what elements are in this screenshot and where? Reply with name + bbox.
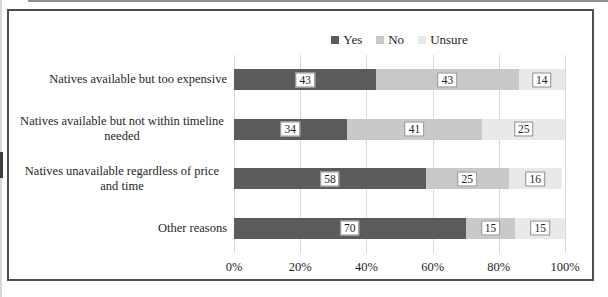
- legend-swatch-icon: [331, 36, 339, 44]
- scan-artifact-top-line: [28, 0, 608, 2]
- data-label: 25: [514, 122, 534, 137]
- bar-segment-unsure: 25: [482, 119, 565, 140]
- bar-segment-yes: 43: [234, 69, 376, 90]
- legend-item-unsure: Unsure: [418, 33, 468, 47]
- category-label: Natives available but not within timelin…: [17, 105, 227, 155]
- bar-row: 434314: [234, 69, 565, 90]
- bar-segment-yes: 70: [234, 218, 466, 239]
- plot-area: 434314344125582516701515: [234, 55, 565, 253]
- figure-page: YesNoUnsure 434314344125582516701515 Nat…: [0, 0, 608, 297]
- bar-row: 344125: [234, 119, 565, 140]
- bar-segment-yes: 58: [234, 168, 426, 189]
- bar-segment-unsure: 14: [519, 69, 565, 90]
- scan-artifact-left-edge: [0, 0, 2, 297]
- legend-label: Yes: [343, 33, 362, 47]
- category-label: Other reasons: [17, 204, 227, 254]
- data-label: 15: [481, 221, 501, 236]
- x-axis-tick: 100%: [550, 260, 579, 274]
- legend-swatch-icon: [376, 36, 384, 44]
- data-label: 15: [530, 221, 550, 236]
- bar-segment-no: 15: [466, 218, 516, 239]
- x-axis-tick: 0%: [226, 260, 243, 274]
- legend-item-no: No: [376, 33, 404, 47]
- bar-segment-no: 25: [426, 168, 509, 189]
- data-label: 43: [438, 72, 458, 87]
- chart-frame: YesNoUnsure 434314344125582516701515 Nat…: [7, 9, 594, 281]
- data-label: 14: [532, 72, 552, 87]
- x-axis-tick: 40%: [355, 260, 378, 274]
- bar-segment-no: 41: [347, 119, 483, 140]
- data-label: 16: [525, 171, 545, 186]
- x-axis-tick: 60%: [421, 260, 444, 274]
- category-label: Natives available but too expensive: [17, 55, 227, 105]
- x-axis-tick: 80%: [487, 260, 510, 274]
- data-label: 70: [340, 221, 360, 236]
- chart-legend: YesNoUnsure: [234, 31, 565, 49]
- bar-segment-unsure: 16: [509, 168, 562, 189]
- legend-item-yes: Yes: [331, 33, 362, 47]
- bar-row: 701515: [234, 218, 565, 239]
- data-label: 41: [405, 122, 425, 137]
- bar-segment-no: 43: [376, 69, 518, 90]
- bar-segment-yes: 34: [234, 119, 347, 140]
- x-axis-tick: 20%: [289, 260, 312, 274]
- category-label: Natives unavailable regardless of price …: [17, 154, 227, 204]
- scan-artifact-left-mark: [0, 152, 3, 178]
- bar-segment-unsure: 15: [515, 218, 565, 239]
- gridline: [565, 55, 566, 253]
- legend-label: No: [388, 33, 404, 47]
- data-label: 43: [295, 72, 315, 87]
- data-label: 34: [281, 122, 301, 137]
- legend-label: Unsure: [430, 33, 468, 47]
- data-label: 58: [320, 171, 340, 186]
- legend-swatch-icon: [418, 36, 426, 44]
- data-label: 25: [458, 171, 478, 186]
- bar-row: 582516: [234, 168, 565, 189]
